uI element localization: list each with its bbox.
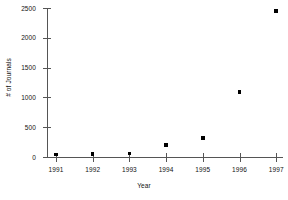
y-tick-mark bbox=[43, 157, 51, 158]
y-tick-label: 1500 bbox=[8, 64, 36, 71]
data-point bbox=[54, 153, 58, 157]
x-tick-label: 1992 bbox=[78, 166, 108, 173]
data-point bbox=[201, 136, 205, 140]
x-tick-label: 1995 bbox=[188, 166, 218, 173]
y-tick-label: 0 bbox=[8, 154, 36, 161]
x-tick-label: 1996 bbox=[225, 166, 255, 173]
x-tick-mark bbox=[166, 153, 167, 162]
y-axis-title: # of Journals bbox=[5, 48, 12, 108]
y-tick-label: 1000 bbox=[8, 94, 36, 101]
x-tick-mark bbox=[276, 153, 277, 162]
x-tick-mark bbox=[203, 153, 204, 162]
y-tick-mark bbox=[43, 38, 51, 39]
y-tick-label: 2000 bbox=[8, 34, 36, 41]
plot-area: 05001000150020002500 1991199219931994199… bbox=[0, 0, 288, 200]
y-tick-mark bbox=[43, 8, 51, 9]
y-tick-mark bbox=[43, 127, 51, 128]
x-tick-label: 1991 bbox=[41, 166, 71, 173]
x-axis-title: Year bbox=[0, 182, 288, 189]
data-point bbox=[274, 9, 278, 13]
data-point bbox=[91, 152, 95, 156]
data-point bbox=[128, 152, 132, 156]
y-tick-label: 500 bbox=[8, 124, 36, 131]
x-tick-label: 1997 bbox=[261, 166, 288, 173]
data-point bbox=[164, 143, 168, 147]
data-point bbox=[238, 90, 242, 94]
x-tick-label: 1993 bbox=[114, 166, 144, 173]
y-tick-mark bbox=[43, 97, 51, 98]
y-tick-mark bbox=[43, 68, 51, 69]
x-tick-mark bbox=[240, 153, 241, 162]
scatter-chart: 05001000150020002500 1991199219931994199… bbox=[0, 0, 288, 200]
x-tick-label: 1994 bbox=[151, 166, 181, 173]
y-axis-line bbox=[47, 8, 48, 158]
y-tick-label: 2500 bbox=[8, 5, 36, 12]
x-axis-line bbox=[47, 157, 283, 158]
